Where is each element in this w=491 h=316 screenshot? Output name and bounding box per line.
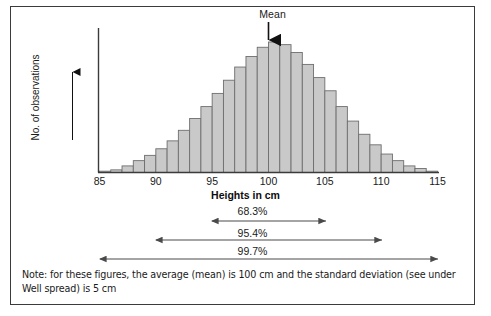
- histogram-bar: [246, 57, 257, 173]
- histogram-bar: [404, 166, 415, 173]
- histogram-bar: [359, 134, 370, 172]
- histogram-bar: [392, 161, 403, 173]
- histogram-bar: [156, 149, 167, 173]
- y-axis-title: No. of observations: [30, 18, 41, 178]
- x-axis-title: Heights in cm: [0, 189, 491, 201]
- histogram-bar: [201, 107, 212, 173]
- histogram-bar: [178, 130, 189, 172]
- histogram-bars: [100, 42, 438, 173]
- x-axis-tick-label: 85: [85, 175, 115, 187]
- histogram-bar: [212, 93, 223, 172]
- histogram-bar: [269, 42, 280, 173]
- histogram-bar: [133, 161, 144, 173]
- band-997-label-text: 99.7%: [238, 245, 268, 257]
- x-axis-tick-label: 90: [141, 175, 171, 187]
- histogram-bar: [223, 80, 234, 172]
- histogram-bar: [370, 145, 381, 173]
- histogram-bar: [381, 154, 392, 172]
- mean-label: Mean: [0, 8, 491, 20]
- x-axis-tick-label: 95: [197, 175, 227, 187]
- x-axis-tick-label: 105: [310, 175, 340, 187]
- histogram-bar: [235, 67, 246, 172]
- histogram-bar: [291, 53, 302, 173]
- band-68-label: 68.3%: [0, 205, 491, 217]
- x-axis-tick-label: 100: [254, 175, 284, 187]
- histogram-bar: [302, 64, 313, 172]
- x-axis-tick-label: 110: [366, 175, 396, 187]
- histogram-bar: [336, 107, 347, 173]
- normal-distribution-figure: Mean No. of observations 859095100105110…: [0, 0, 491, 316]
- band-997-label: 99.7%: [0, 245, 491, 257]
- histogram-bar: [280, 45, 291, 173]
- x-axis-tick-label: 115: [423, 175, 453, 187]
- histogram-bar: [190, 118, 201, 172]
- band-95-label: 95.4%: [0, 227, 491, 239]
- histogram-bar: [122, 166, 133, 173]
- histogram-bar: [145, 155, 156, 172]
- histogram-bar: [167, 141, 178, 173]
- band-68-label-text: 68.3%: [238, 205, 268, 217]
- figure-note: Note: for these figures, the average (me…: [22, 268, 470, 296]
- band-95-label-text: 95.4%: [238, 227, 268, 239]
- histogram-bar: [257, 47, 268, 172]
- histogram-bar: [314, 78, 325, 173]
- histogram-bar: [347, 121, 358, 172]
- histogram-bar: [325, 91, 336, 173]
- mean-label-text: Mean: [259, 8, 286, 20]
